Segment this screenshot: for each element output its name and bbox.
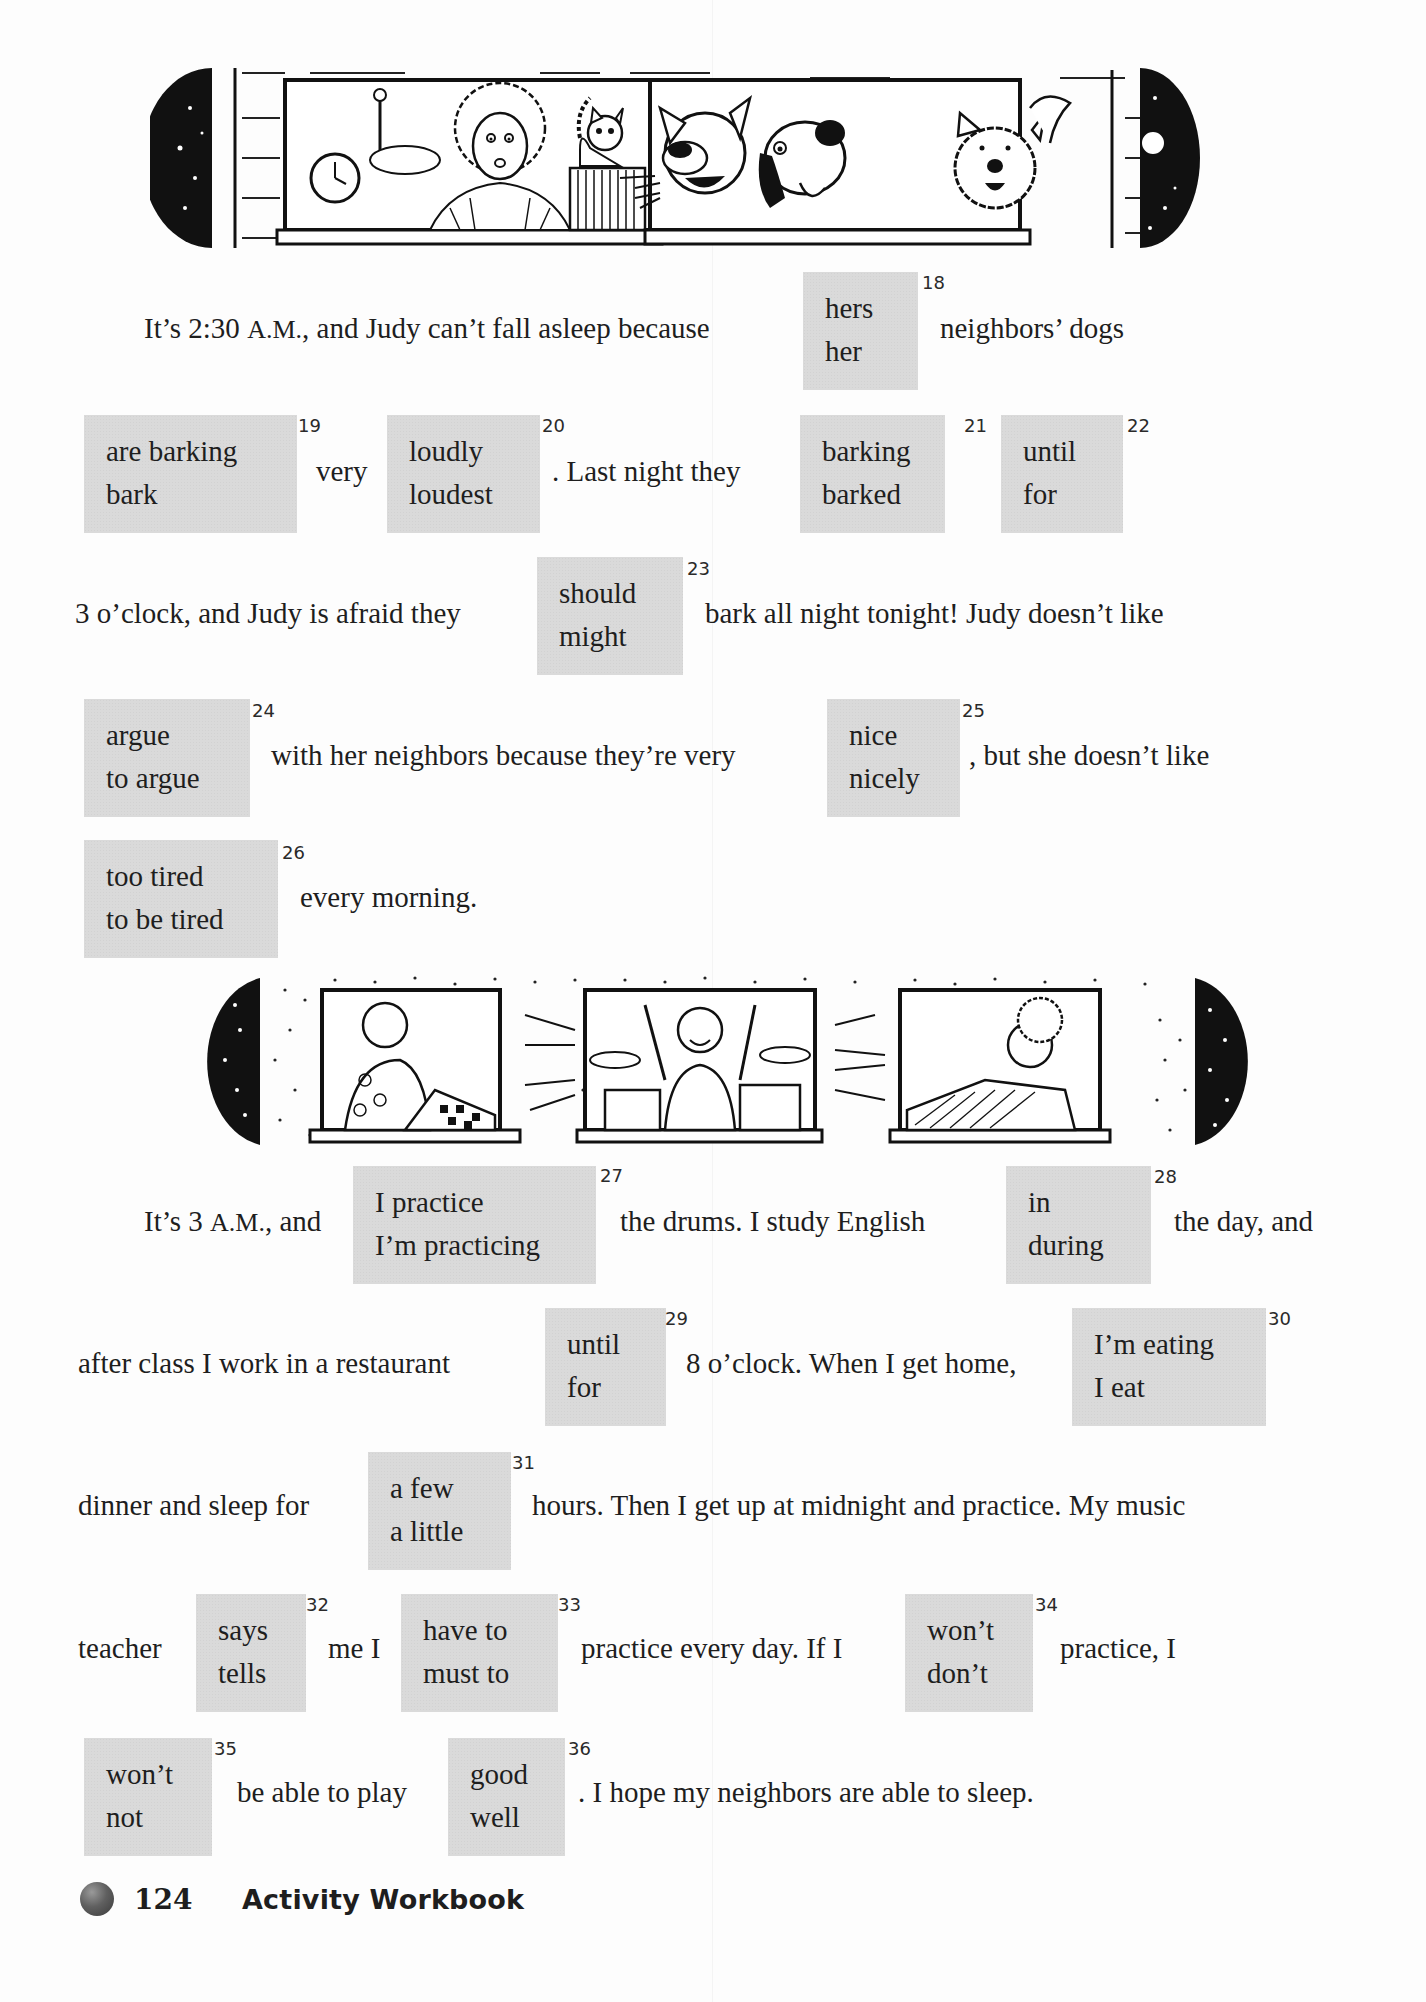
passage-text: 3 o’clock, and Judy is afraid they: [75, 599, 461, 628]
question-number: 34: [1035, 1596, 1058, 1614]
choice-option[interactable]: should: [559, 579, 636, 608]
choice-option[interactable]: until: [567, 1330, 620, 1359]
choice-option[interactable]: loudly: [409, 437, 483, 466]
choice-option[interactable]: for: [1023, 480, 1057, 509]
choice-option[interactable]: in: [1028, 1188, 1051, 1217]
page-number: 124: [134, 1883, 192, 1916]
workbook-title: Activity Workbook: [242, 1884, 524, 1915]
choice-option[interactable]: until: [1023, 437, 1076, 466]
question-number: 25: [962, 702, 985, 720]
passage-text: , but she doesn’t like: [969, 741, 1209, 770]
passage-text: 8 o’clock. When I get home,: [686, 1349, 1016, 1378]
question-number: 21: [964, 417, 987, 435]
question-number: 22: [1127, 417, 1150, 435]
choice-option[interactable]: her: [825, 337, 862, 366]
choice-option[interactable]: I practice: [375, 1188, 484, 1217]
question-number: 36: [568, 1740, 591, 1758]
choice-option[interactable]: bark: [106, 480, 158, 509]
choice-option[interactable]: not: [106, 1803, 143, 1832]
choice-option[interactable]: to argue: [106, 764, 200, 793]
choice-box-36[interactable]: good well: [448, 1738, 565, 1856]
choice-option[interactable]: during: [1028, 1231, 1104, 1260]
question-number: 35: [214, 1740, 237, 1758]
choice-option[interactable]: a few: [390, 1474, 454, 1503]
choice-box-32[interactable]: says tells: [196, 1594, 306, 1712]
passage-text: hours. Then I get up at midnight and pra…: [532, 1491, 1185, 1520]
choice-option[interactable]: to be tired: [106, 905, 224, 934]
choice-box-34[interactable]: won’t don’t: [905, 1594, 1033, 1712]
choice-box-27[interactable]: I practice I’m practicing: [353, 1166, 596, 1284]
choice-box-21[interactable]: barking barked: [800, 415, 945, 533]
choice-option[interactable]: a little: [390, 1517, 463, 1546]
question-number: 33: [558, 1596, 581, 1614]
passage-text: . Last night they: [552, 457, 740, 486]
choice-box-33[interactable]: have to must to: [401, 1594, 558, 1712]
choice-box-22[interactable]: until for: [1001, 415, 1123, 533]
choice-option[interactable]: might: [559, 622, 627, 651]
choice-option[interactable]: barked: [822, 480, 901, 509]
question-number: 18: [922, 274, 945, 292]
question-number: 29: [665, 1310, 688, 1328]
question-number: 19: [298, 417, 321, 435]
choice-box-19[interactable]: are barking bark: [84, 415, 297, 533]
passage-text: with her neighbors because they’re very: [271, 741, 736, 770]
choice-box-35[interactable]: won’t not: [84, 1738, 212, 1856]
passage-text: practice, I: [1060, 1634, 1176, 1663]
choice-option[interactable]: must to: [423, 1659, 509, 1688]
bottom-illustration: [195, 970, 1325, 1150]
question-number: 26: [282, 844, 305, 862]
choice-box-28[interactable]: in during: [1006, 1166, 1151, 1284]
choice-option[interactable]: I eat: [1094, 1373, 1145, 1402]
choice-box-23[interactable]: should might: [537, 557, 683, 675]
passage-text: It’s 3 A.M., and: [144, 1207, 321, 1236]
passage-text: me I: [328, 1634, 380, 1663]
top-illustration: [150, 58, 1340, 258]
question-number: 30: [1268, 1310, 1291, 1328]
choice-option[interactable]: are barking: [106, 437, 237, 466]
choice-box-29[interactable]: until for: [545, 1308, 666, 1426]
choice-option[interactable]: argue: [106, 721, 170, 750]
choice-option[interactable]: nice: [849, 721, 897, 750]
choice-option[interactable]: good: [470, 1760, 528, 1789]
choice-option[interactable]: loudest: [409, 480, 493, 509]
choice-option[interactable]: won’t: [106, 1760, 173, 1789]
choice-option[interactable]: don’t: [927, 1659, 988, 1688]
choice-option[interactable]: hers: [825, 294, 873, 323]
choice-option[interactable]: I’m eating: [1094, 1330, 1214, 1359]
am-abbreviation: A.M.: [247, 315, 302, 344]
passage-text: neighbors’ dogs: [940, 314, 1124, 343]
passage-text: every morning.: [300, 883, 477, 912]
passage-text: very: [316, 457, 368, 486]
choice-option[interactable]: won’t: [927, 1616, 994, 1645]
question-number: 24: [252, 702, 275, 720]
passage-text: practice every day. If I: [581, 1634, 842, 1663]
choice-box-24[interactable]: argue to argue: [84, 699, 250, 817]
question-number: 27: [600, 1167, 623, 1185]
choice-box-25[interactable]: nice nicely: [827, 699, 960, 817]
choice-box-31[interactable]: a few a little: [368, 1452, 511, 1570]
choice-option[interactable]: barking: [822, 437, 911, 466]
choice-option[interactable]: nicely: [849, 764, 920, 793]
choice-option[interactable]: tells: [218, 1659, 266, 1688]
passage-text: bark all night tonight! Judy doesn’t lik…: [705, 599, 1164, 628]
choice-option[interactable]: for: [567, 1373, 601, 1402]
choice-option[interactable]: says: [218, 1616, 268, 1645]
choice-option[interactable]: I’m practicing: [375, 1231, 540, 1260]
passage-text: It’s 2:30 A.M., and Judy can’t fall asle…: [144, 314, 710, 343]
passage-text: dinner and sleep for: [78, 1491, 309, 1520]
passage-text: the day, and: [1174, 1207, 1313, 1236]
passage-text: teacher: [78, 1634, 162, 1663]
passage-text: be able to play: [237, 1778, 407, 1807]
question-number: 32: [306, 1596, 329, 1614]
page-bullet-icon: [80, 1882, 114, 1916]
choice-box-20[interactable]: loudly loudest: [387, 415, 540, 533]
choice-box-18[interactable]: hers her: [803, 272, 918, 390]
choice-option[interactable]: too tired: [106, 862, 203, 891]
choice-box-26[interactable]: too tired to be tired: [84, 840, 278, 958]
choice-box-30[interactable]: I’m eating I eat: [1072, 1308, 1266, 1426]
am-abbreviation: A.M.: [210, 1208, 265, 1237]
question-number: 20: [542, 417, 565, 435]
choice-option[interactable]: well: [470, 1803, 520, 1832]
choice-option[interactable]: have to: [423, 1616, 508, 1645]
passage-text: the drums. I study English: [620, 1207, 925, 1236]
